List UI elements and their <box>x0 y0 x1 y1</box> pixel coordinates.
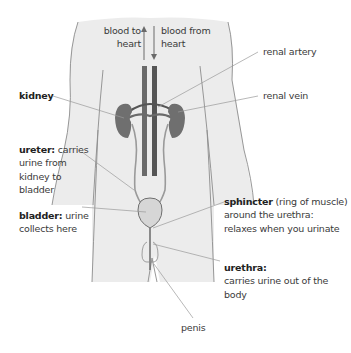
ureter-line4: bladder <box>19 183 89 196</box>
label-blood-from-heart: blood from heart <box>161 24 210 51</box>
ureter-line1: carries <box>55 144 89 155</box>
kidney-term: kidney <box>19 90 54 101</box>
aorta <box>152 66 157 176</box>
urethra-line1: carries urine out of the <box>224 274 328 287</box>
vena-cava <box>142 66 147 176</box>
urethra-term: urethra: <box>224 262 267 273</box>
urethra-line2: body <box>224 288 328 301</box>
label-urethra: urethra: carries urine out of the body <box>224 261 328 301</box>
sphincter-line2: around the urethra: <box>224 208 348 221</box>
label-kidney: kidney <box>19 89 54 102</box>
blood-to-heart-line2: heart <box>103 37 141 50</box>
blood-from-heart-line1: blood from <box>161 24 210 37</box>
label-bladder: bladder: urine collects here <box>19 209 89 236</box>
label-ureter: ureter: carries urine from kidney to bla… <box>19 143 89 196</box>
label-penis: penis <box>181 321 206 334</box>
ureter-line3: kidney to <box>19 170 89 183</box>
blood-to-heart-line1: blood to <box>103 24 141 37</box>
label-renal-vein: renal vein <box>263 89 308 102</box>
ureter-term: ureter: <box>19 144 55 155</box>
blood-from-heart-line2: heart <box>161 37 210 50</box>
bladder-line2: collects here <box>19 222 89 235</box>
ureter-line2: urine from <box>19 156 89 169</box>
bladder-line1: urine <box>62 210 88 221</box>
sphincter-term: sphincter <box>224 196 273 207</box>
label-renal-artery: renal artery <box>263 45 316 58</box>
sphincter-line3: relaxes when you urinate <box>224 222 348 235</box>
bladder-term: bladder: <box>19 210 62 221</box>
sphincter-line1: (ring of muscle) <box>273 196 348 207</box>
label-blood-to-heart: blood to heart <box>103 24 141 51</box>
label-sphincter: sphincter (ring of muscle) around the ur… <box>224 195 348 235</box>
